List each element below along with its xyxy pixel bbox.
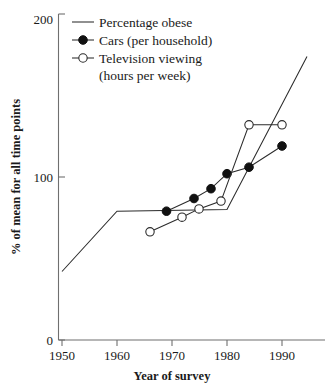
- legend-label-television-viewing: Television viewing: [99, 51, 202, 66]
- data-point-cars-1990: [278, 142, 287, 151]
- x-axis-title: Year of survey: [134, 369, 212, 383]
- legend-marker-filled-circle-icon: [79, 36, 88, 45]
- series-line-percentage-obese: [62, 56, 307, 271]
- x-tick-label-1970: 1970: [159, 348, 185, 363]
- x-tick-labels: 1950 1960 1970 1980 1990: [49, 348, 295, 363]
- y-tick-label-200: 200: [34, 12, 54, 27]
- data-point-tv-1984: [245, 121, 253, 129]
- data-point-tv-1975: [195, 205, 203, 213]
- series-line-television-viewing: [150, 125, 282, 232]
- data-point-tv-1979: [217, 197, 225, 205]
- data-point-cars-1969: [162, 207, 171, 216]
- legend-marker-open-circle-icon: [79, 54, 87, 62]
- legend-label-cars-per-household: Cars (per household): [99, 33, 212, 48]
- data-point-tv-1966: [146, 228, 154, 236]
- legend-label-percentage-obese: Percentage obese: [99, 15, 192, 30]
- x-tick-label-1980: 1980: [214, 348, 240, 363]
- data-point-cars-1974: [190, 194, 199, 203]
- x-tick-label-1950: 1950: [49, 348, 75, 363]
- y-tick-label-100: 100: [34, 170, 54, 185]
- chart-svg: 200 100 0 1950 1960 1970 1980 1990 Year …: [0, 0, 329, 386]
- x-tick-label-1960: 1960: [104, 348, 130, 363]
- y-axis-title: % of mean for all time points: [9, 99, 23, 255]
- x-tick-label-1990: 1990: [269, 348, 295, 363]
- data-point-cars-1977: [207, 184, 216, 193]
- data-point-tv-1972: [178, 213, 186, 221]
- y-tick-labels: 200 100 0: [34, 12, 54, 348]
- data-point-tv-1990: [278, 121, 286, 129]
- chart-legend: Percentage obese Cars (per household) Te…: [72, 15, 212, 83]
- data-point-cars-1984: [245, 163, 254, 172]
- chart-figure: 200 100 0 1950 1960 1970 1980 1990 Year …: [0, 0, 329, 386]
- y-tick-label-0: 0: [47, 333, 54, 348]
- legend-label-television-viewing-units: (hours per week): [99, 68, 190, 83]
- series-markers-television-viewing: [146, 121, 286, 236]
